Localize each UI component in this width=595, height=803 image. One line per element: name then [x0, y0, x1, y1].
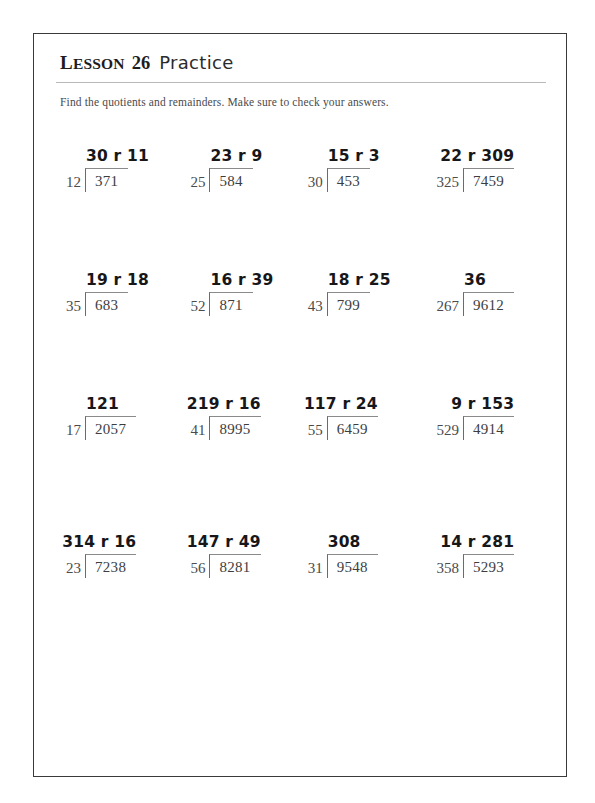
quotient-answer[interactable]: 15 r 3: [328, 147, 380, 165]
divisor: 43: [308, 299, 327, 316]
division-problem: 43 18 r 25 799: [304, 292, 425, 316]
dividend: 584: [219, 173, 242, 189]
dividend: 5293: [473, 559, 504, 575]
quotient-answer[interactable]: 219 r 16: [187, 395, 261, 413]
division-bracket: 19 r 18 683: [85, 292, 128, 316]
lesson-header: Lesson 26 Practice: [56, 52, 546, 78]
lesson-number: 26: [132, 53, 151, 74]
quotient-answer[interactable]: 117 r 24: [304, 395, 378, 413]
division-bracket: 314 r 16 7238: [85, 554, 136, 578]
dividend: 8281: [219, 559, 250, 575]
division-problem: 56 147 r 49 8281: [186, 554, 303, 578]
dividend: 799: [337, 297, 360, 313]
dividend: 4914: [473, 421, 504, 437]
lesson-label-rest: esson: [73, 55, 125, 72]
quotient-answer[interactable]: 36: [464, 271, 486, 289]
quotient-answer[interactable]: 16 r 39: [210, 271, 273, 289]
quotient-answer[interactable]: 314 r 16: [62, 533, 136, 551]
quotient-answer[interactable]: 23 r 9: [210, 147, 262, 165]
quotient-answer[interactable]: 9 r 153: [451, 395, 514, 413]
divisor: 31: [308, 561, 327, 578]
header-divider: [56, 82, 546, 83]
division-bracket: 30 r 11 371: [85, 168, 128, 192]
division-problem: 52 16 r 39 871: [186, 292, 303, 316]
quotient-answer[interactable]: 30 r 11: [86, 147, 149, 165]
division-bracket: 14 r 281 5293: [463, 554, 514, 578]
dividend: 2057: [95, 421, 126, 437]
division-bracket: 18 r 25 799: [327, 292, 370, 316]
division-bracket: 23 r 9 584: [209, 168, 252, 192]
dividend: 871: [219, 297, 242, 313]
dividend: 9612: [473, 297, 504, 313]
divisor: 17: [66, 423, 85, 440]
dividend: 683: [95, 297, 118, 313]
division-problem: 23 314 r 16 7238: [56, 554, 186, 578]
problem-row: 17 121 2057 41 219 r 16 8995 55: [56, 378, 546, 440]
division-problem: 12 30 r 11 371: [56, 168, 186, 192]
division-problem: 25 23 r 9 584: [186, 168, 303, 192]
divisor: 41: [190, 423, 209, 440]
quotient-answer[interactable]: 14 r 281: [440, 533, 514, 551]
division-bracket: 117 r 24 6459: [327, 416, 378, 440]
division-problem: 55 117 r 24 6459: [304, 416, 425, 440]
dividend: 7459: [473, 173, 504, 189]
dividend: 8995: [219, 421, 250, 437]
division-bracket: 36 9612: [463, 292, 514, 316]
division-problem: 267 36 9612: [424, 292, 546, 316]
dividend: 6459: [337, 421, 368, 437]
divisor: 56: [190, 561, 209, 578]
division-bracket: 22 r 309 7459: [463, 168, 514, 192]
problem-row: 12 30 r 11 371 25 23 r 9 584 30: [56, 130, 546, 192]
divisor: 23: [66, 561, 85, 578]
divisor: 55: [308, 423, 327, 440]
section-label: Practice: [159, 52, 233, 73]
dividend: 9548: [337, 559, 368, 575]
divisor: 25: [190, 175, 209, 192]
quotient-answer[interactable]: 18 r 25: [328, 271, 391, 289]
problem-row: 35 19 r 18 683 52 16 r 39 871 43: [56, 254, 546, 316]
division-problem: 325 22 r 309 7459: [424, 168, 546, 192]
division-problem: 17 121 2057: [56, 416, 186, 440]
division-problem: 35 19 r 18 683: [56, 292, 186, 316]
division-problem: 358 14 r 281 5293: [424, 554, 546, 578]
division-problem: 41 219 r 16 8995: [186, 416, 303, 440]
division-bracket: 308 9548: [327, 554, 378, 578]
division-bracket: 147 r 49 8281: [209, 554, 260, 578]
division-bracket: 15 r 3 453: [327, 168, 370, 192]
divisor: 35: [66, 299, 85, 316]
division-problem: 31 308 9548: [304, 554, 425, 578]
divisor: 529: [436, 423, 463, 440]
quotient-answer[interactable]: 121: [86, 395, 119, 413]
division-bracket: 121 2057: [85, 416, 136, 440]
quotient-answer[interactable]: 308: [328, 533, 361, 551]
dividend: 453: [337, 173, 360, 189]
divisor: 358: [436, 561, 463, 578]
divisor: 325: [436, 175, 463, 192]
quotient-answer[interactable]: 22 r 309: [440, 147, 514, 165]
instructions-text: Find the quotients and remainders. Make …: [56, 96, 546, 108]
quotient-answer[interactable]: 147 r 49: [187, 533, 261, 551]
divisor: 52: [190, 299, 209, 316]
divisor: 30: [308, 175, 327, 192]
lesson-label: Lesson: [60, 52, 125, 74]
division-problem: 30 15 r 3 453: [304, 168, 425, 192]
quotient-answer[interactable]: 19 r 18: [86, 271, 149, 289]
worksheet-page: Lesson 26 Practice Find the quotients an…: [33, 33, 567, 777]
dividend: 7238: [95, 559, 126, 575]
worksheet-content: Lesson 26 Practice Find the quotients an…: [56, 52, 546, 762]
division-bracket: 219 r 16 8995: [209, 416, 260, 440]
division-problem: 529 9 r 153 4914: [424, 416, 546, 440]
divisor: 267: [436, 299, 463, 316]
division-bracket: 16 r 39 871: [209, 292, 252, 316]
lesson-label-initial: L: [60, 52, 73, 73]
dividend: 371: [95, 173, 118, 189]
divisor: 12: [66, 175, 85, 192]
problem-grid: 12 30 r 11 371 25 23 r 9 584 30: [56, 130, 546, 578]
division-bracket: 9 r 153 4914: [463, 416, 514, 440]
problem-row: 23 314 r 16 7238 56 147 r 49 8281 31: [56, 516, 546, 578]
